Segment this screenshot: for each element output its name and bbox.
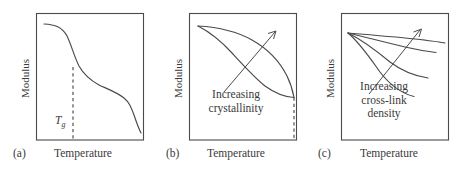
panel-b-graphics [190,14,297,141]
panel-a-graphics [37,14,144,141]
panel-c-graphics [342,14,449,141]
panel-c-annotation-line-3: density [344,107,424,121]
panel-c-crosslink-curve-3 [348,33,436,53]
panel-c-frame [342,14,449,141]
panel-b-annotation-line-2: crystallinity [194,102,278,116]
figure-container: Modulus Tg (a) Temperature Modulus Incre… [0,0,464,173]
panel-c-annotation: Increasing cross-link density [344,80,424,121]
panel-c-tag: (c) [318,147,331,160]
panel-b-annotation-line-1: Increasing [194,88,278,102]
panel-b-tag: (b) [166,147,179,160]
panel-a-frame [37,14,144,141]
panel-c-annotation-line-2: cross-link [344,94,424,108]
panel-c-crosslink-curve-2 [348,33,428,78]
panel-c-annotation-line-1: Increasing [344,80,424,94]
panel-b-high-crystallinity-curve [198,26,294,98]
tg-subscript: g [61,120,65,129]
panel-a-tg-marker-label: Tg [55,114,65,130]
panel-b-annotation-arrow-line [224,32,275,92]
panel-a-y-axis-label: Modulus [19,59,31,98]
panel-b-frame [190,14,297,141]
panel-b-x-axis-label: Temperature [207,147,265,160]
panel-a-tag: (a) [13,147,26,160]
panel-a-x-axis-label: Temperature [54,147,112,160]
panel-c-x-axis-label: Temperature [360,147,418,160]
panel-b-y-axis-label: Modulus [172,59,184,98]
panel-c-y-axis-label: Modulus [324,59,336,98]
panel-b-annotation: Increasing crystallinity [194,88,278,115]
